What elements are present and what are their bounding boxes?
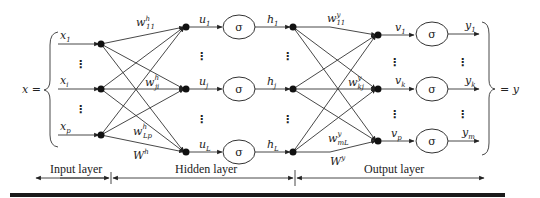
input-label-xi: xi: [60, 74, 68, 89]
input-node-i: [98, 86, 105, 93]
output-activation-1: σ: [416, 22, 448, 46]
output-sum-node-p: [375, 138, 382, 145]
output-sum-node-1: [375, 32, 382, 39]
input-node-1: [98, 41, 105, 48]
output-label-yk: yk: [464, 74, 475, 89]
hidden-output-ellipsis-1: ⋮: [282, 50, 293, 63]
output-activation-m: σ: [416, 129, 448, 153]
hidden-output-label-h1: h1: [267, 13, 279, 28]
svg-text:σ: σ: [428, 28, 436, 41]
output-sum-label-vp: vp: [391, 127, 402, 142]
weight-wmLy: wymL: [328, 130, 349, 147]
output-sum-label-vk: vk: [395, 74, 405, 89]
output-sum-ellipsis-2: ⋮: [389, 108, 400, 121]
hidden-sum-label-u1: u1: [199, 13, 211, 28]
svg-text:σ: σ: [235, 21, 243, 34]
input-node-p: [98, 132, 105, 139]
svg-text:σ: σ: [235, 146, 243, 159]
hidden-sum-node-j: [183, 86, 190, 93]
input-label-xp: xp: [60, 120, 71, 135]
output-activation-k: σ: [416, 77, 448, 101]
hidden-output-label-hL: hL: [267, 138, 279, 153]
weight-w11h: wh11: [136, 15, 155, 31]
input-label-x1: x1: [60, 29, 71, 44]
weight-wkjy: wykj: [348, 74, 365, 91]
hidden-layer-label: Hidden layer: [175, 162, 237, 176]
hidden-sum-node-L: [183, 149, 190, 156]
output-label-y1: y1: [464, 19, 476, 34]
output-weight-matrix-label: Wy: [330, 154, 346, 168]
output-sum-ellipsis-1: ⋮: [389, 56, 400, 69]
output-vector-label: = y: [500, 83, 520, 96]
svg-text:σ: σ: [428, 83, 436, 96]
output-sum-node-k: [375, 86, 382, 93]
output-label-ym: ym: [461, 126, 475, 141]
hidden-sum-node-1: [183, 24, 190, 31]
output-layer-label: Output layer: [364, 162, 424, 176]
input-ellipsis-2: ⋮: [75, 103, 86, 116]
input-ellipsis-1: ⋮: [75, 58, 86, 71]
hidden-output-ellipsis-2: ⋮: [282, 113, 293, 126]
hidden-output-label-hj: hj: [267, 75, 277, 90]
hidden-output-node-1: [290, 24, 297, 31]
output-ellipsis-2: ⋮: [457, 108, 468, 121]
output-sum-label-v1: v1: [395, 21, 406, 36]
hidden-output-node-L: [290, 149, 297, 156]
input-vector-label: x =: [22, 83, 41, 96]
hidden-sum-label-uL: uL: [199, 138, 211, 153]
output-brace: [482, 22, 495, 155]
svg-text:σ: σ: [235, 83, 243, 96]
hidden-sum-ellipsis-2: ⋮: [196, 113, 207, 126]
weight-wjih: whji: [145, 74, 159, 91]
weight-w11y: wy11: [327, 11, 345, 27]
output-ellipsis-1: ⋮: [457, 56, 468, 69]
hidden-sum-ellipsis-1: ⋮: [196, 50, 207, 63]
hidden-sum-label-uj: uj: [199, 75, 209, 90]
hidden-output-node-j: [290, 86, 297, 93]
neural-network-diagram: x = x1 xi xp ⋮ ⋮ wh11 whji whLp Wh u1 uj…: [0, 0, 540, 198]
hidden-weight-matrix-label: Wh: [133, 148, 149, 162]
svg-text:σ: σ: [428, 135, 436, 148]
hidden-activation-j: σ: [223, 77, 255, 101]
hidden-activation-L: σ: [223, 140, 255, 164]
hidden-activation-1: σ: [223, 15, 255, 39]
input-layer-label: Input layer: [50, 162, 102, 176]
bottom-rule: [10, 193, 505, 197]
input-brace: [44, 32, 58, 147]
